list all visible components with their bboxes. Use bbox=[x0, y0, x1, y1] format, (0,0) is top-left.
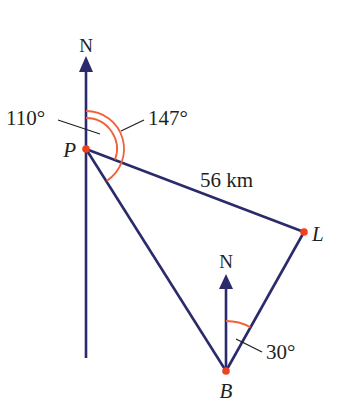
bearing-diagram: N N P L B 110° 147° 30° 56 km bbox=[0, 0, 340, 413]
label-l: L bbox=[311, 222, 324, 246]
north-arrow-icon-b bbox=[219, 274, 233, 289]
leader-110 bbox=[58, 120, 100, 134]
label-p: P bbox=[62, 138, 76, 162]
angle-arc-110 bbox=[86, 118, 117, 160]
north-label-p: N bbox=[79, 35, 93, 56]
angle-arc-30 bbox=[226, 321, 251, 327]
leader-147 bbox=[121, 120, 144, 131]
point-p bbox=[82, 145, 90, 153]
segment-pl bbox=[86, 149, 304, 232]
distance-label-pl: 56 km bbox=[200, 168, 253, 192]
north-label-b: N bbox=[219, 251, 233, 272]
point-b bbox=[222, 367, 230, 375]
angle-label-30: 30° bbox=[266, 340, 295, 364]
angle-label-147: 147° bbox=[148, 106, 188, 130]
angle-arc-147 bbox=[86, 111, 124, 181]
label-b: B bbox=[220, 379, 233, 403]
point-l bbox=[300, 228, 308, 236]
north-arrow-icon-p bbox=[79, 56, 93, 72]
angle-label-110: 110° bbox=[6, 106, 45, 130]
